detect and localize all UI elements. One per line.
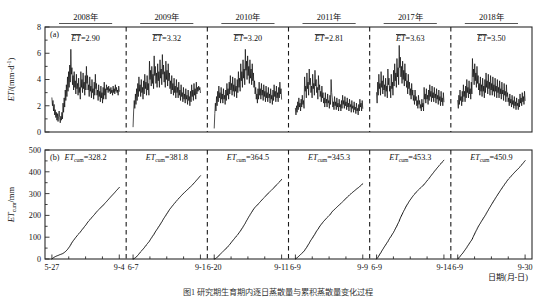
year-label-1: 2009年: [154, 12, 179, 22]
xtick-label-end-5: 9-30: [518, 263, 533, 272]
et-mean-value-1: =3.32: [162, 34, 181, 43]
et-cum-value-1: =381.8: [165, 153, 188, 162]
et-mean-value-0: =2.90: [81, 34, 100, 43]
xtick-label-start-5: 6-9: [452, 263, 463, 272]
et-mean-value-5: =3.50: [487, 34, 506, 43]
xtick-label-start-3: 6-9: [290, 263, 301, 272]
xtick-label-end-2: 9-11: [274, 263, 289, 272]
et-cum-annotation-1: ETcum=381.8: [145, 153, 188, 163]
panel-a-axis-units-close: ): [6, 58, 16, 61]
panel-b-id: (b): [50, 153, 60, 162]
panel-a-axis-units: /(mm·d: [6, 65, 16, 91]
cumulative-et-curve-2: [214, 180, 281, 259]
panel-b-axis-units: /mm: [6, 186, 16, 202]
cumulative-et-curve-0: [52, 187, 119, 259]
et-mean-annotation-3: ET=2.81: [314, 34, 344, 43]
et-mean-annotation-4: ET=3.63: [395, 34, 425, 43]
daily-et-series-2: [214, 49, 281, 128]
et-cum-annotation-3: ETcum=345.3: [307, 153, 350, 163]
xtick-label-end-1: 9-1: [195, 263, 206, 272]
et-mean-value-3: =2.81: [324, 34, 343, 43]
xtick-label-end-0: 9-4: [114, 263, 125, 272]
panel-b-ytick-label: 200: [29, 211, 41, 220]
xtick-label-end-3: 9-9: [357, 263, 368, 272]
x-axis-title: 日期(月-日): [488, 273, 528, 282]
et-cum-annotation-2: ETcum=364.5: [226, 153, 269, 163]
daily-et-series-5: [458, 59, 525, 110]
panel-a-axis-title: ET/(mm·d-1): [6, 58, 16, 103]
et-mean-annotation-2: ET=3.20: [233, 34, 263, 43]
year-label-2: 2010年: [236, 12, 261, 22]
xtick-label-end-4: 9-14: [437, 263, 452, 272]
et-cum-value-4: =453.3: [408, 153, 431, 162]
year-label-4: 2017年: [398, 12, 423, 22]
xtick-label-start-4: 6-9: [371, 263, 382, 272]
daily-et-series-0: [52, 49, 119, 123]
daily-et-series-4: [377, 45, 444, 111]
figure-caption: 图1 研究期生育期内逐日蒸散量与累积蒸散量变化过程: [183, 287, 373, 297]
cumulative-et-curve-5: [458, 161, 525, 259]
daily-et-series-3: [295, 69, 362, 115]
year-label-3: 2011年: [317, 12, 341, 22]
panel-a-ytick-label: 6: [37, 49, 41, 58]
et-mean-annotation-0: ET=2.90: [70, 34, 100, 43]
panel-b-axis-title: ETcum/mm: [6, 186, 17, 223]
et-mean-value-4: =3.63: [406, 34, 425, 43]
panel-a-id: (a): [50, 30, 59, 39]
et-cum-annotation-5: ETcum=450.9: [469, 153, 512, 163]
panel-b-ytick-label: 400: [29, 168, 41, 177]
panel-a-ytick-label: 0: [37, 128, 41, 137]
et-cum-value-0: =328.2: [84, 153, 107, 162]
et-mean-annotation-5: ET=3.50: [476, 34, 506, 43]
cumulative-et-curve-4: [377, 160, 444, 259]
xtick-label-start-2: 6-20: [207, 263, 222, 272]
daily-et-series-1: [133, 55, 200, 127]
cumulative-et-curve-3: [295, 184, 362, 259]
year-label-0: 2008年: [73, 12, 98, 22]
panel-a-ytick-label: 8: [37, 23, 41, 32]
et-cum-annotation-4: ETcum=453.3: [388, 153, 431, 163]
evapotranspiration-figure: 0246801002003004005002008年ET=2.90ETcum=3…: [0, 0, 556, 304]
et-cum-value-3: =345.3: [327, 153, 350, 162]
et-mean-value-2: =3.20: [243, 34, 262, 43]
et-mean-annotation-1: ET=3.32: [151, 34, 181, 43]
et-cum-value-5: =450.9: [489, 153, 512, 162]
panel-b-ytick-label: 100: [29, 233, 41, 242]
panel-b-ytick-label: 300: [29, 190, 41, 199]
et-cum-annotation-0: ETcum=328.2: [63, 153, 106, 163]
cumulative-et-curve-1: [133, 176, 200, 259]
panel-b-ytick-label: 0: [37, 255, 41, 264]
panel-b-ytick-label: 500: [29, 146, 41, 155]
xtick-label-start-1: 6-7: [128, 263, 139, 272]
year-label-5: 2018年: [479, 12, 504, 22]
xtick-label-start-0: 5-27: [44, 263, 59, 272]
et-cum-value-2: =364.5: [246, 153, 269, 162]
figure-container: 0246801002003004005002008年ET=2.90ETcum=3…: [0, 0, 556, 304]
panel-a-ytick-label: 2: [37, 102, 41, 111]
panel-a-ytick-label: 4: [37, 75, 41, 84]
